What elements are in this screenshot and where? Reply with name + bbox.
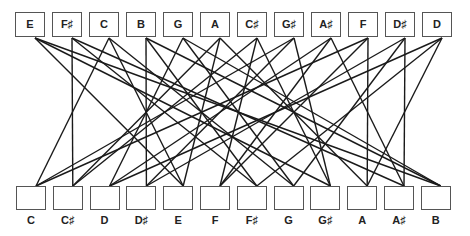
bottom-note-label: A♯ xyxy=(384,214,414,226)
connection-line xyxy=(36,38,294,186)
top-note-box: G xyxy=(163,12,193,37)
bottom-note-label: A xyxy=(347,214,377,226)
connection-line xyxy=(110,38,442,186)
top-note-label: G♯ xyxy=(275,18,303,30)
connection-line xyxy=(257,38,442,186)
bottom-note-label: F♯ xyxy=(237,214,267,226)
bottom-note-box xyxy=(421,186,451,210)
bottom-note-label: E xyxy=(163,214,193,226)
top-note-label: G xyxy=(164,18,192,30)
top-note-label: C xyxy=(90,18,118,30)
top-note-box: A♯ xyxy=(311,12,341,37)
bottom-note-box xyxy=(310,186,340,210)
bottom-note-label: G♯ xyxy=(310,214,340,226)
top-note-box: F xyxy=(348,12,378,37)
top-note-box: D xyxy=(422,12,452,37)
bottom-note-label: G xyxy=(274,214,304,226)
connection-line xyxy=(35,38,330,186)
top-note-label: F xyxy=(349,18,377,30)
top-note-label: D xyxy=(423,18,451,30)
bottom-note-label: C xyxy=(16,214,46,226)
bottom-note-box xyxy=(53,186,83,210)
bottom-note-box xyxy=(347,186,377,210)
bottom-note-label: C♯ xyxy=(53,214,83,226)
bottom-note-box xyxy=(90,186,120,210)
top-note-label: E xyxy=(16,18,44,30)
top-note-label: F♯ xyxy=(53,18,81,30)
bottom-note-label: D♯ xyxy=(126,214,156,226)
top-note-label: A xyxy=(201,18,229,30)
top-note-box: G♯ xyxy=(274,12,304,37)
top-note-label: D♯ xyxy=(386,18,414,30)
bottom-note-box xyxy=(163,186,193,210)
top-note-box: F♯ xyxy=(52,12,82,37)
connection-line xyxy=(36,38,368,186)
bottom-note-box xyxy=(200,186,230,210)
top-note-box: A xyxy=(200,12,230,37)
connection-line xyxy=(294,38,330,186)
bottom-note-box xyxy=(237,186,267,210)
top-note-box: E xyxy=(15,12,45,37)
bottom-note-label: B xyxy=(421,214,451,226)
top-note-label: A♯ xyxy=(312,18,340,30)
connection-line xyxy=(220,38,257,186)
top-note-box: C xyxy=(89,12,119,37)
top-note-box: C♯ xyxy=(237,12,267,37)
bottom-note-box xyxy=(126,186,156,210)
top-note-label: C♯ xyxy=(238,18,266,30)
top-note-box: B xyxy=(126,12,156,37)
top-note-box: D♯ xyxy=(385,12,415,37)
bottom-note-label: D xyxy=(90,214,120,226)
bottom-note-label: F xyxy=(200,214,230,226)
triad-mapping-diagram: EF♯CBGAC♯G♯A♯FD♯DCC♯DD♯EFF♯GG♯AA♯B xyxy=(0,0,470,236)
bottom-note-box xyxy=(274,186,304,210)
bottom-note-box xyxy=(16,186,46,210)
top-note-label: B xyxy=(127,18,155,30)
bottom-note-box xyxy=(384,186,414,210)
